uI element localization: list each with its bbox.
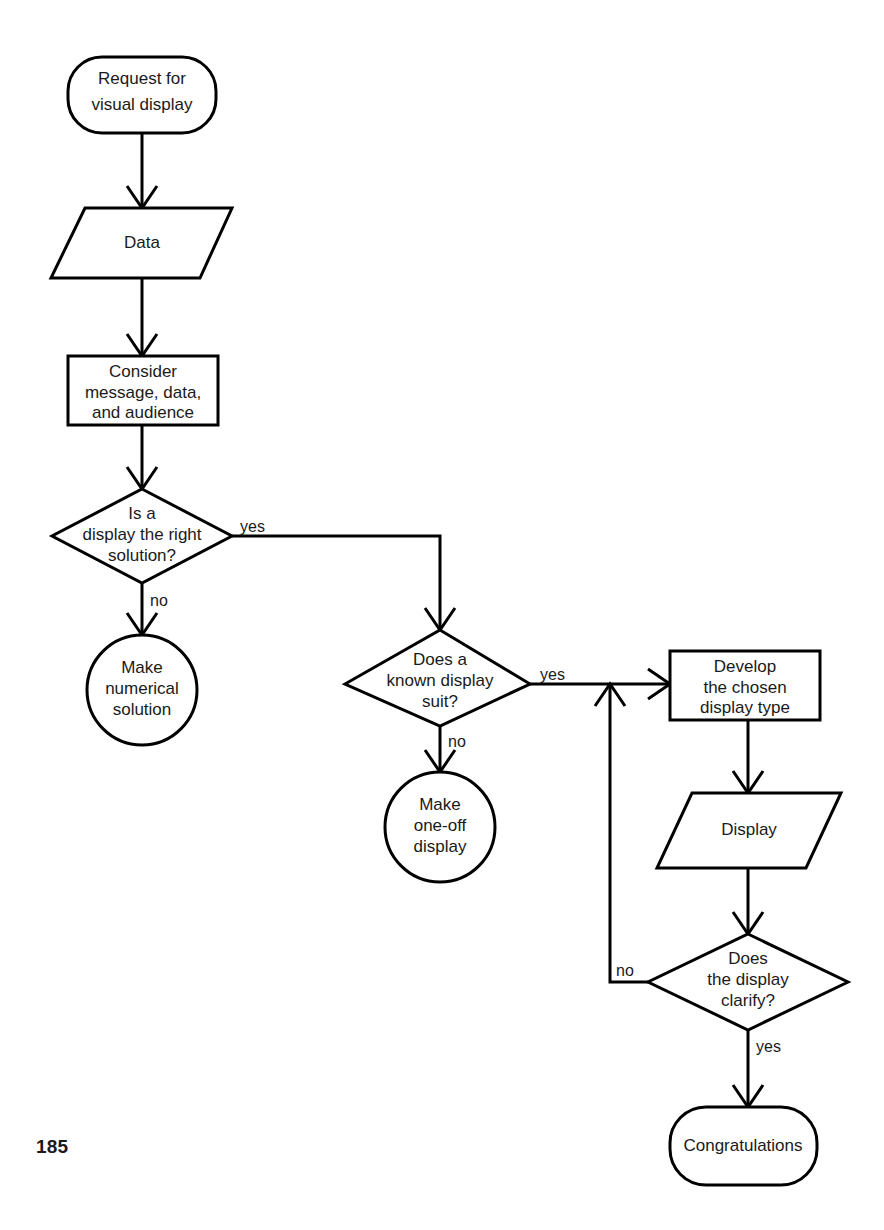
node-decision3-line-2: the display — [707, 970, 789, 989]
node-is-display-right: Is a display the right solution? — [52, 489, 232, 583]
node-decision3-line-1: Does — [728, 949, 768, 968]
node-congratulations: Congratulations — [670, 1107, 817, 1185]
node-start-line-2: visual display — [91, 95, 193, 114]
node-display-clarify: Does the display clarify? — [648, 934, 848, 1030]
node-make-numerical-line-1: Make — [121, 658, 163, 677]
edge-decision1-yes — [232, 536, 440, 630]
node-make-one-off-line-2: one-off — [414, 816, 467, 835]
node-display-out: Display — [657, 793, 841, 868]
node-known-display-suit: Does a known display suit? — [345, 630, 530, 726]
edge-label-decision2-no: no — [448, 733, 466, 750]
node-develop-line-1: Develop — [714, 657, 776, 676]
node-data-in: Data — [51, 208, 232, 278]
node-decision1-line-2: display the right — [82, 525, 201, 544]
edge-label-decision3-no: no — [616, 962, 634, 979]
node-make-numerical-line-2: numerical — [105, 679, 179, 698]
node-consider-line-3: and audience — [92, 403, 194, 422]
node-display-line-1: Display — [721, 820, 777, 839]
edge-label-decision1-no: no — [150, 592, 168, 609]
node-make-one-off: Make one-off display — [385, 772, 495, 882]
flowchart-canvas: Request for visual display Data Consider… — [0, 0, 884, 1230]
node-consider-line-1: Consider — [109, 362, 177, 381]
edge-label-decision1-yes: yes — [240, 518, 265, 535]
node-make-numerical: Make numerical solution — [87, 635, 197, 745]
node-make-one-off-line-3: display — [414, 837, 467, 856]
node-make-numerical-line-3: solution — [113, 700, 172, 719]
node-develop-line-3: display type — [700, 698, 790, 717]
node-consider-line-2: message, data, — [85, 383, 201, 402]
node-decision2-line-3: suit? — [422, 692, 458, 711]
node-develop-chosen: Develop the chosen display type — [670, 651, 820, 720]
node-decision2-line-2: known display — [387, 671, 494, 690]
page-number: 185 — [36, 1136, 68, 1158]
edge-label-decision3-yes: yes — [756, 1038, 781, 1055]
node-congratulations-line-1: Congratulations — [683, 1136, 802, 1155]
node-decision3-line-3: clarify? — [721, 991, 775, 1010]
node-develop-line-2: the chosen — [703, 678, 786, 697]
edge-decision3-no-loop — [610, 684, 648, 982]
node-decision2-line-1: Does a — [413, 650, 467, 669]
node-make-one-off-line-1: Make — [419, 795, 461, 814]
connector-layer — [127, 133, 763, 1107]
node-data-line-1: Data — [124, 233, 160, 252]
flowchart-diagram: Request for visual display Data Consider… — [0, 0, 884, 1230]
node-start-line-1: Request for — [98, 69, 186, 88]
node-decision1-line-3: solution? — [108, 546, 176, 565]
node-consider: Consider message, data, and audience — [68, 356, 218, 425]
node-decision1-line-1: Is a — [128, 504, 156, 523]
edge-label-decision2-yes: yes — [540, 666, 565, 683]
node-start: Request for visual display — [68, 57, 216, 133]
